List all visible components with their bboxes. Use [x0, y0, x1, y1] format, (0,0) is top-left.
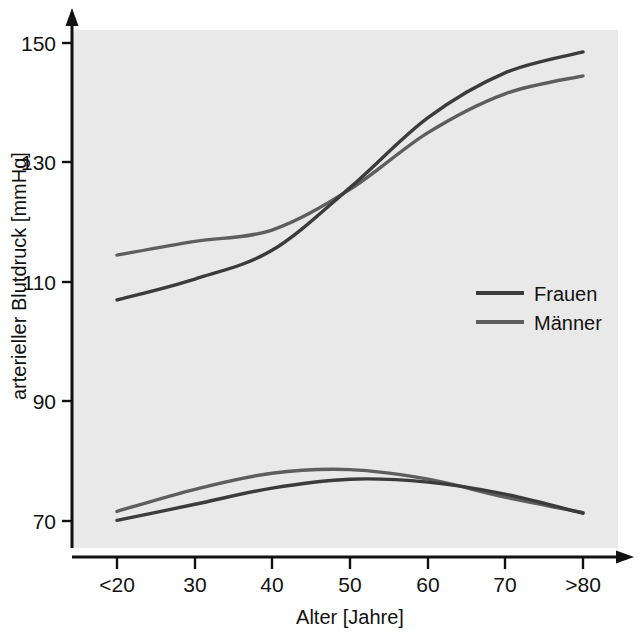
- x-axis-title: Alter [Jahre]: [296, 606, 404, 628]
- x-axis-arrowhead: [616, 551, 634, 564]
- blood-pressure-age-chart: 150 130 110 90 70 arterieller Blutdruck …: [0, 0, 642, 633]
- x-tick-label-gt80: >80: [565, 573, 601, 596]
- x-axis: <20 30 40 50 60 70 >80: [72, 551, 634, 597]
- y-tick-label-150: 150: [21, 32, 56, 55]
- x-tick-label-40: 40: [260, 573, 283, 596]
- y-axis-title: arterieller Blutdruck [mmHg]: [8, 152, 30, 400]
- legend-label-frauen: Frauen: [534, 283, 597, 305]
- x-tick-label-70: 70: [493, 573, 516, 596]
- x-tick-label-50: 50: [338, 573, 361, 596]
- chart-canvas: 150 130 110 90 70 arterieller Blutdruck …: [0, 0, 642, 633]
- x-tick-label-30: 30: [183, 573, 206, 596]
- y-tick-label-90: 90: [33, 390, 56, 413]
- y-tick-label-70: 70: [33, 510, 56, 533]
- x-tick-label-60: 60: [416, 573, 439, 596]
- legend-label-maenner: Männer: [534, 312, 602, 334]
- y-axis-arrowhead: [66, 8, 79, 26]
- x-tick-label-lt20: <20: [99, 573, 135, 596]
